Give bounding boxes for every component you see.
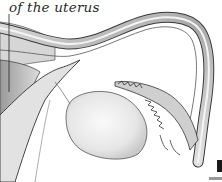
anatomy-illustration <box>0 0 222 182</box>
uterus-drawing <box>0 0 222 182</box>
caption-text: of the uterus <box>9 0 100 15</box>
cropped-text-fragment <box>209 177 222 180</box>
ovary <box>55 82 147 159</box>
cropped-heading-fragment <box>217 160 222 172</box>
